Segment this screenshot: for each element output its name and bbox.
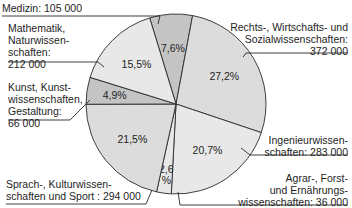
slice-percent-label: 20,7%	[193, 144, 223, 156]
label-line: Ingenieurwissen-	[265, 134, 348, 146]
label-line: Medizin: 105 000	[2, 2, 82, 14]
label-line: Sprach-, Kulturwissen-	[6, 178, 141, 190]
label-line: wissenschaften: 36 000	[238, 196, 348, 208]
label-line: Gestaltung:	[8, 105, 83, 117]
label-agrar: Agrar-, Forst- und Ernährungs- wissensch…	[238, 172, 348, 208]
label-line: 372 000	[230, 45, 348, 57]
slice-percent-label: %	[162, 174, 171, 186]
label-line: Sozialwissenschaften:	[230, 33, 348, 45]
label-line: Naturwissen-	[8, 34, 69, 46]
label-line: 212 000	[8, 58, 69, 70]
label-mathematik: Mathematik, Naturwissen- schaften: 212 0…	[8, 22, 69, 70]
label-line: Agrar-, Forst-	[238, 172, 348, 184]
label-line: wissenschaften,	[8, 93, 83, 105]
label-ingenieur: Ingenieurwissen- schaften: 283 000	[265, 134, 348, 158]
label-line: 66 000	[8, 117, 83, 129]
slice-percent-label: 27,2%	[209, 70, 239, 82]
label-line: Kunst, Kunst-	[8, 81, 83, 93]
label-medizin: Medizin: 105 000	[2, 2, 82, 14]
slice-percent-label: 21,5%	[117, 133, 147, 145]
label-line: schaften:	[8, 46, 69, 58]
slice-percent-label: 15,5%	[122, 58, 152, 70]
label-line: Mathematik,	[8, 22, 69, 34]
label-sprach: Sprach-, Kulturwissen- schaften und Spor…	[6, 178, 141, 202]
label-line: und Ernährungs-	[238, 184, 348, 196]
label-rechts: Rechts-, Wirtschafts- und Sozialwissensc…	[230, 21, 348, 57]
slice-percent-label: 7,6%	[161, 42, 185, 54]
label-line: schaften: 283 000	[265, 146, 348, 158]
label-kunst: Kunst, Kunst- wissenschaften, Gestaltung…	[8, 81, 83, 129]
slice-percent-label: 4,9%	[103, 89, 127, 101]
label-line: schaften und Sport : 294 000	[6, 190, 141, 202]
label-line: Rechts-, Wirtschafts- und	[230, 21, 348, 33]
